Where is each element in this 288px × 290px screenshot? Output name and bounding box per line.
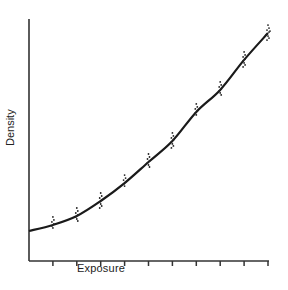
data-point (172, 132, 174, 134)
data-point (99, 201, 101, 203)
data-point (52, 227, 54, 229)
data-point (51, 221, 53, 223)
data-point (101, 205, 103, 207)
data-point (219, 92, 221, 94)
data-point (267, 35, 269, 37)
data-point (147, 162, 149, 164)
data-point (269, 30, 271, 32)
data-point (53, 223, 55, 225)
data-point (148, 164, 150, 166)
data-point (218, 86, 220, 88)
data-point (173, 139, 175, 141)
data-point (149, 156, 151, 158)
data-point (194, 108, 196, 110)
data-point (267, 24, 269, 26)
data-point (125, 177, 127, 179)
data-point (149, 166, 151, 168)
data-point (265, 34, 267, 36)
data-point (196, 110, 198, 112)
data-point (99, 207, 101, 209)
data-point (196, 106, 198, 108)
data-point (99, 197, 101, 199)
data-point (218, 90, 220, 92)
data-point (77, 220, 79, 222)
data-point (220, 94, 222, 96)
x-axis-label: Exposure (77, 262, 125, 274)
data-point (194, 112, 196, 114)
data-point (171, 141, 173, 143)
data-point (266, 39, 268, 41)
data-point (244, 64, 246, 66)
data-point (124, 185, 126, 187)
data-point (124, 174, 126, 176)
data-point (220, 88, 222, 90)
data-point (148, 153, 150, 155)
data-point (123, 179, 125, 181)
data-point (195, 103, 197, 105)
data-point (101, 195, 103, 197)
data-point (171, 147, 173, 149)
data-point (52, 216, 54, 218)
data-point (268, 37, 270, 39)
data-point (266, 29, 268, 31)
data-point (172, 143, 174, 145)
data-point (149, 160, 151, 162)
data-point (100, 203, 102, 205)
data-point (244, 54, 246, 56)
data-point (243, 62, 245, 64)
data-point (173, 145, 175, 147)
data-point (123, 183, 125, 185)
data-point (77, 210, 79, 212)
data-point (76, 218, 78, 220)
data-point (51, 225, 53, 227)
data-point (75, 216, 77, 218)
data-point (147, 158, 149, 160)
data-point (53, 219, 55, 221)
data-point-clusters (51, 24, 271, 229)
y-axis-label: Density (4, 109, 16, 146)
data-point (242, 60, 244, 62)
data-point (243, 51, 245, 53)
data-point (195, 114, 197, 116)
data-point (171, 137, 173, 139)
data-point (101, 199, 103, 201)
chart-canvas (0, 0, 288, 290)
data-point (75, 212, 77, 214)
data-point (268, 27, 270, 29)
data-point (220, 84, 222, 86)
data-point (125, 181, 127, 183)
data-point (76, 207, 78, 209)
data-point (244, 58, 246, 60)
data-point (242, 56, 244, 58)
data-point (242, 66, 244, 68)
data-point (219, 81, 221, 83)
data-point (77, 214, 79, 216)
data-point (173, 135, 175, 137)
density-curve (29, 33, 268, 231)
data-point (100, 192, 102, 194)
